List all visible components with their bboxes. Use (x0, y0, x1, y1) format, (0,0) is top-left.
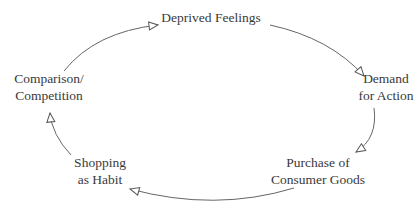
node-label-line-1: Demand (358, 70, 413, 87)
arrow-comparison-to-deprived (64, 25, 158, 71)
consumption-cycle-diagram: Deprived Feelings Demand for Action Purc… (0, 0, 418, 218)
node-label-line-2: as Habit (74, 171, 126, 188)
node-label: Deprived Feelings (161, 9, 260, 26)
node-purchase-of-consumer-goods: Purchase of Consumer Goods (271, 154, 365, 188)
node-comparison-competition: Comparison/ Competition (14, 70, 84, 104)
arrow-shopping-to-comparison (50, 113, 71, 155)
node-label-line-2: Consumer Goods (271, 171, 365, 188)
node-demand-for-action: Demand for Action (358, 70, 413, 104)
node-label-line-1: Purchase of (271, 154, 365, 171)
node-label-line-2: Competition (14, 87, 84, 104)
node-deprived-feelings: Deprived Feelings (161, 9, 260, 26)
node-label-line-1: Shopping (74, 154, 126, 171)
arrow-deprived-to-demand (270, 25, 364, 76)
node-label-line-2: for Action (358, 87, 413, 104)
node-label-line-1: Comparison/ (14, 70, 84, 87)
arrow-purchase-to-shopping (130, 188, 294, 200)
node-shopping-as-habit: Shopping as Habit (74, 154, 126, 188)
arrow-demand-to-purchase (356, 108, 375, 152)
